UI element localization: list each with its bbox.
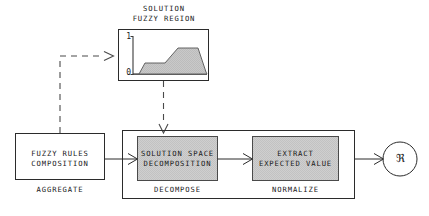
normalize-box-label-line1: EXTRACT <box>252 149 339 158</box>
normalize-caption: NORMALIZE <box>252 185 339 194</box>
result-real-number-symbol: ℜ <box>386 152 414 166</box>
diagram-graphics <box>0 0 429 216</box>
chart-title-line1: SOLUTION <box>118 4 210 13</box>
decompose-box-label-line2: DECOMPOSITION <box>136 159 219 168</box>
decompose-caption: DECOMPOSE <box>136 185 219 194</box>
feedback-arrowhead <box>104 52 114 61</box>
normalize-box-label-line2: EXPECTED VALUE <box>252 159 339 168</box>
diagram-canvas: SOLUTION FUZZY REGION 1 0 FUZZY RULES CO… <box>0 0 429 216</box>
feedback-dashed-path <box>60 56 104 133</box>
decompose-box-label-line1: SOLUTION SPACE <box>136 149 219 158</box>
aggregate-box-label-line2: COMPOSITION <box>15 159 105 168</box>
chart-axis-label-one: 1 <box>121 32 131 42</box>
chart-to-container-arrowhead <box>159 124 168 133</box>
aggregate-box-label-line1: FUZZY RULES <box>15 149 105 158</box>
chart-title-line2: FUZZY REGION <box>114 14 214 23</box>
aggregate-caption: AGGREGATE <box>15 185 105 194</box>
chart-axis-label-zero: 0 <box>121 68 131 78</box>
